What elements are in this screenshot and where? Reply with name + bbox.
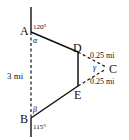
length-label-ec: 0.25 mi — [90, 77, 115, 86]
point-label-c: C — [109, 62, 117, 76]
angle-label-a-exterior: 120° — [33, 23, 47, 31]
geometry-diagram: A B C D E 120° α 115° β γ 3 mi 0.25 mi 0… — [0, 0, 129, 140]
segment-eb — [31, 86, 78, 118]
angle-label-gamma: γ — [93, 63, 97, 72]
point-label-d: D — [73, 41, 82, 55]
point-label-b: B — [20, 112, 28, 126]
point-label-e: E — [74, 88, 81, 102]
length-label-ab: 3 mi — [7, 71, 24, 81]
segment-ad — [31, 32, 78, 52]
length-label-dc: 0.25 mi — [90, 51, 115, 60]
point-label-a: A — [20, 24, 29, 38]
angle-label-beta: β — [32, 105, 37, 114]
angle-label-alpha: α — [33, 36, 38, 45]
angle-label-b-exterior: 115° — [33, 123, 46, 131]
